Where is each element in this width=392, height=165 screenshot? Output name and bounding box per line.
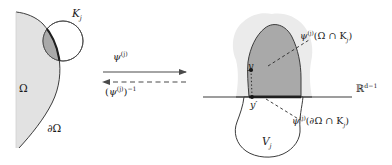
label-point-y: y bbox=[248, 61, 253, 71]
label-omega: Ω bbox=[19, 83, 28, 94]
label-inverse-map: (ψ(j))−1 bbox=[105, 86, 137, 97]
label-lower-set-vj: Vj bbox=[262, 136, 272, 150]
figure-canvas bbox=[0, 0, 392, 165]
label-hyperplane: ℝd−1 bbox=[356, 83, 377, 94]
label-compact-set-kj: Kj bbox=[72, 8, 82, 22]
label-image-of-omega-cap: ψ(j)(Ω ∩ Kj) bbox=[300, 31, 352, 44]
label-point-y-prime: y′ bbox=[250, 100, 258, 110]
label-forward-map: ψ(j) bbox=[113, 51, 128, 62]
boundary-chart-figure: Kj Ω ∂Ω ψ(j) (ψ(j))−1 ψ(j)(Ω ∩ Kj) ψ(j)(… bbox=[0, 0, 392, 165]
map-arrows-group bbox=[103, 72, 186, 82]
label-omega-boundary: ∂Ω bbox=[47, 123, 61, 134]
label-image-of-boundary-cap: ψ(j)(∂Ω ∩ Kj) bbox=[292, 116, 349, 129]
